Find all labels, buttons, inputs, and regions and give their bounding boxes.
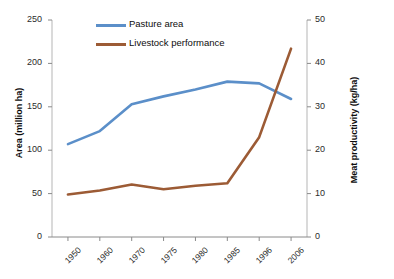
series-line-pasture-area [68,82,291,144]
chart-container: Area (million ha) Meat productivity (kg/… [0,0,394,279]
legend-label-livestock-performance: Livestock performance [129,37,225,48]
legend-label-pasture-area: Pasture area [129,18,183,29]
series-line-livestock-performance [68,49,291,195]
axis-lines [52,20,307,237]
axis-tick-marks [48,20,311,241]
legend-swatch-pasture-area [96,24,126,27]
legend-swatch-livestock-performance [96,43,126,46]
series-lines [68,49,291,195]
